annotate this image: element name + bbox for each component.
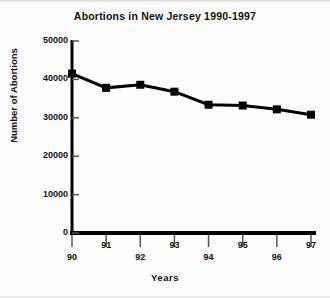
x-tick-label: 92 (125, 252, 155, 262)
y-tick-label: 20000 (22, 151, 68, 160)
y-tick-label: 50000 (22, 36, 68, 45)
y-tick-label: 30000 (22, 113, 68, 122)
data-point-marker (68, 70, 76, 78)
data-point-marker (205, 101, 213, 109)
chart-figure: Abortions in New Jersey 1990-1997 Number… (0, 0, 330, 298)
data-point-marker (307, 111, 315, 119)
y-tick-label: 40000 (22, 74, 68, 83)
x-tick-label: 96 (262, 252, 292, 262)
x-tick-label: 95 (228, 240, 258, 250)
series-markers (68, 70, 315, 119)
x-tick-label: 91 (91, 240, 121, 250)
data-point-marker (239, 102, 247, 110)
data-point-marker (170, 88, 178, 96)
x-tick-label: 90 (57, 252, 87, 262)
x-tick-label: 97 (296, 240, 326, 250)
data-point-marker (136, 81, 144, 89)
y-tick-label: 10000 (22, 190, 68, 199)
data-point-marker (273, 105, 281, 113)
data-point-marker (102, 84, 110, 92)
x-tick-label: 93 (159, 240, 189, 250)
x-tick-label: 94 (194, 252, 224, 262)
y-tick-label: 0 (22, 228, 68, 237)
